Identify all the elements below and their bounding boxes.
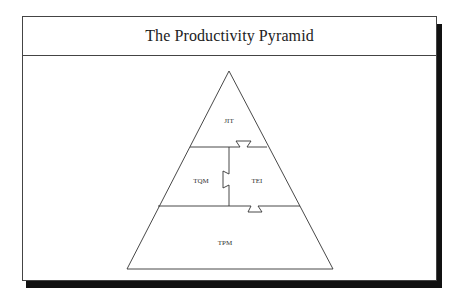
level-label-jit: JIT xyxy=(224,117,234,125)
productivity-pyramid: JIT TQM TEI TPM xyxy=(0,0,457,301)
level-label-tpm: TPM xyxy=(218,239,233,247)
level-label-tei: TEI xyxy=(252,177,264,185)
level-label-tqm: TQM xyxy=(193,177,209,185)
